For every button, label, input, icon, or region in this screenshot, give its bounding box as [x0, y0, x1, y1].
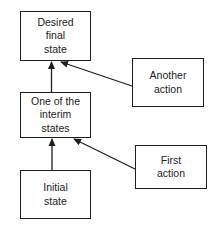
node-initial-state: Initial state — [20, 170, 91, 219]
node-label: Another action — [150, 69, 187, 96]
node-first-action: First action — [135, 145, 207, 189]
diagram-canvas: Desired final state One of the interim s… — [0, 0, 220, 234]
node-label: Initial state — [43, 181, 68, 208]
arrow-first-action-to-interim — [74, 139, 135, 169]
node-desired-final-state: Desired final state — [20, 11, 91, 61]
node-label: Desired final state — [37, 16, 73, 57]
node-another-action: Another action — [132, 58, 204, 107]
arrow-another-action-to-final — [61, 62, 132, 86]
node-label: One of the interim states — [31, 95, 80, 136]
node-interim-state: One of the interim states — [20, 92, 91, 138]
node-label: First action — [157, 154, 185, 181]
